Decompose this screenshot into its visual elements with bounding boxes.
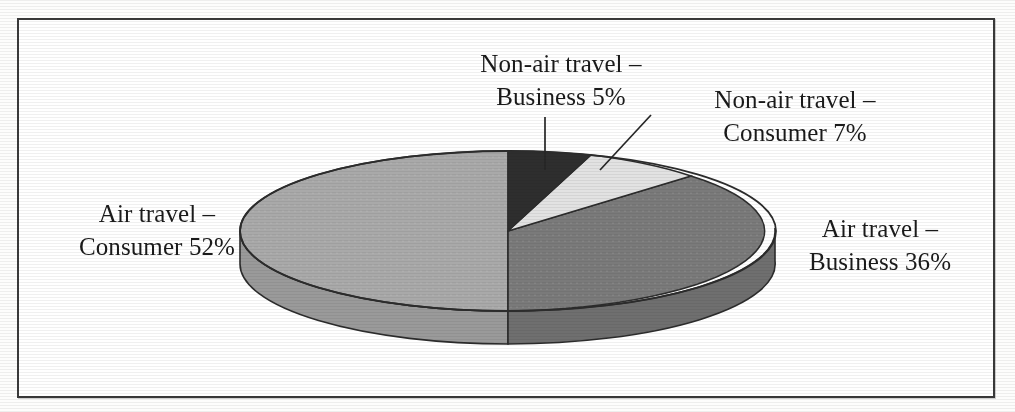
slice-label-air-consumer-line1: Air travel – [99,200,215,227]
slice-label-nonair-business-line1: Non-air travel – [480,50,641,77]
slice-label-nonair-consumer-line1: Non-air travel – [714,86,875,113]
slice-label-air-consumer-line2: Consumer 52% [22,231,292,264]
pie-top-face [240,151,776,311]
slice-label-air-consumer: Air travel – Consumer 52% [22,198,292,263]
slice-label-nonair-consumer: Non-air travel – Consumer 7% [650,84,940,149]
slice-label-air-business: Air travel – Business 36% [760,213,1000,278]
slice-label-nonair-consumer-line2: Consumer 7% [650,117,940,150]
slice-label-air-business-line2: Business 36% [760,246,1000,279]
chart-page: Non-air travel – Business 5% Non-air tra… [0,0,1015,412]
slice-label-air-business-line1: Air travel – [822,215,938,242]
